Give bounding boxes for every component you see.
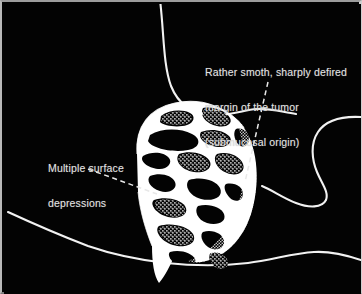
depressions-annotation-line-2: depressions <box>48 198 124 210</box>
margin-annotation-line-3: (submucosal origin) <box>205 137 347 149</box>
figure-root: Rather smoth, sharply defired margin of … <box>0 0 362 294</box>
margin-annotation: Rather smoth, sharply defired margin of … <box>205 44 347 172</box>
depressions-annotation: Multiple surface depressions <box>48 140 124 233</box>
margin-annotation-line-1: Rather smoth, sharply defired <box>205 67 347 79</box>
illustration-canvas: Rather smoth, sharply defired margin of … <box>4 4 361 294</box>
plate-frame: Rather smoth, sharply defired margin of … <box>0 0 362 294</box>
margin-annotation-line-2: margin of the tumor <box>205 102 347 114</box>
depressions-annotation-line-1: Multiple surface <box>48 163 124 175</box>
